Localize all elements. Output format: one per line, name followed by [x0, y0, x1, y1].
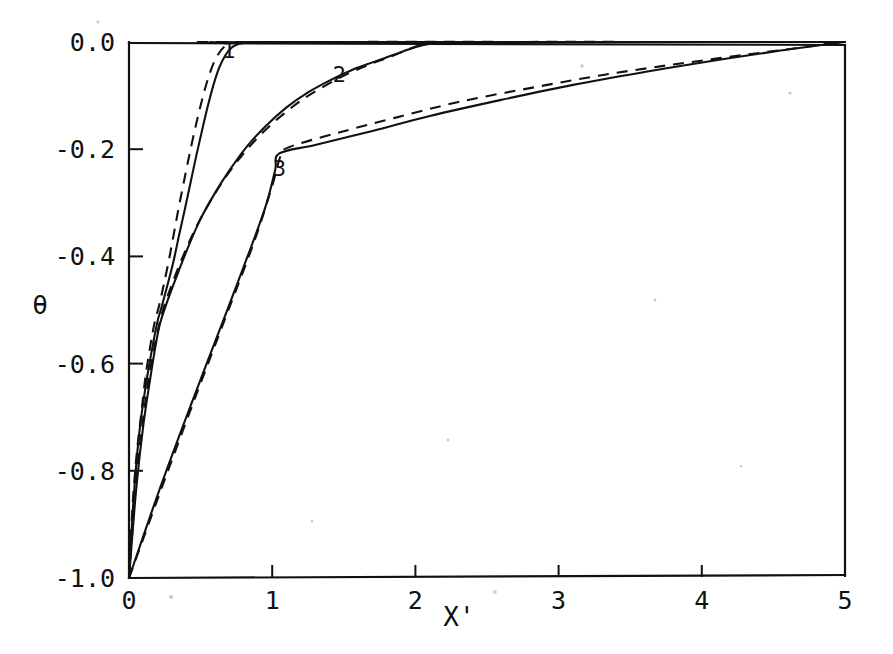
- x-axis: [129, 575, 845, 578]
- curve-2-solid: [129, 42, 845, 578]
- x-tick-label: 4: [694, 586, 709, 615]
- x-tick-label: 3: [551, 586, 566, 615]
- y-tick-label: -0.2: [55, 135, 115, 164]
- x-tick-labels: 012345: [121, 586, 852, 615]
- y-tick-labels: 0.0-0.2-0.4-0.6-0.8-1.0: [55, 28, 115, 593]
- curve-3-dashed: [129, 42, 845, 578]
- data-curves: [129, 42, 845, 578]
- figure-container: 012345 0.0-0.2-0.4-0.6-0.8-1.0 123 X' θ: [0, 0, 893, 654]
- curve-label-3: 3: [273, 157, 286, 181]
- x-tick-label: 2: [408, 586, 423, 615]
- curve-3-solid: [129, 42, 845, 578]
- curve-1-solid: [129, 42, 845, 578]
- x-axis-title: X': [443, 602, 474, 632]
- curve-label-1: 1: [223, 39, 236, 63]
- x-tick-label: 0: [121, 586, 136, 615]
- y-tick-label: 0.0: [70, 28, 115, 57]
- y-tick-label: -1.0: [55, 564, 115, 593]
- x-tick-label: 1: [265, 586, 280, 615]
- y-tick-label: -0.6: [55, 350, 115, 379]
- axes-frame: [129, 42, 845, 578]
- curve-2-dashed: [129, 42, 845, 578]
- line-chart: 012345 0.0-0.2-0.4-0.6-0.8-1.0 123 X' θ: [0, 0, 893, 654]
- curve-1-dashed: [129, 42, 845, 578]
- curve-label-2: 2: [333, 63, 346, 87]
- y-axis-title: θ: [32, 290, 48, 320]
- x-tick-label: 5: [837, 586, 852, 615]
- y-tick-label: -0.8: [55, 457, 115, 486]
- y-tick-label: -0.4: [55, 242, 115, 271]
